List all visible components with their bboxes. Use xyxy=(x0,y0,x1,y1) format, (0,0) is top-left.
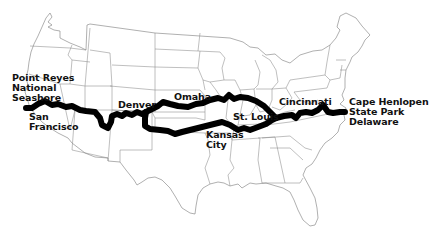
label-st-louis: St. Louis xyxy=(233,112,279,122)
label-omaha: Omaha xyxy=(174,92,211,102)
label-kansas-city: Kansas City xyxy=(206,130,244,150)
label-point-reyes: Point Reyes National Seashore xyxy=(12,73,74,103)
label-san-francisco: San Francisco xyxy=(29,112,79,132)
label-cape-henlopen: Cape Henlopen State Park Delaware xyxy=(349,97,429,127)
label-denver: Denver xyxy=(118,100,156,110)
label-cincinnati: Cincinnati xyxy=(279,97,332,107)
